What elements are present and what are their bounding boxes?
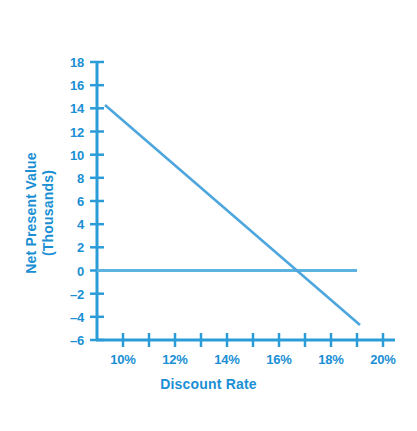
x-tick-label: 18% bbox=[318, 352, 343, 367]
y-tick-label: 12 bbox=[54, 125, 84, 140]
y-tick-label: –6 bbox=[50, 333, 84, 348]
y-tick-label: 0 bbox=[54, 264, 84, 279]
npv-discount-rate-chart: 18 16 14 12 10 8 6 4 2 0 –2 –4 –6 10% 12… bbox=[0, 0, 417, 431]
x-tick-label: 10% bbox=[110, 352, 135, 367]
y-tick-label: 4 bbox=[54, 217, 84, 232]
y-tick-label: 2 bbox=[54, 240, 84, 255]
x-tick-label: 16% bbox=[266, 352, 291, 367]
x-tick-label: 20% bbox=[370, 352, 395, 367]
x-tick-label: 12% bbox=[162, 352, 187, 367]
npv-series-line bbox=[105, 105, 360, 325]
x-axis-title: Discount Rate bbox=[0, 376, 417, 392]
y-tick-label: 10 bbox=[54, 148, 84, 163]
x-tick-label: 14% bbox=[214, 352, 239, 367]
y-axis-title-line1: Net Present Value bbox=[23, 113, 40, 313]
y-axis-title: Net Present Value (Thousands) bbox=[23, 113, 57, 313]
y-tick-label: 6 bbox=[54, 194, 84, 209]
y-tick-label: 8 bbox=[54, 171, 84, 186]
y-tick-label: 14 bbox=[54, 101, 84, 116]
y-axis-title-line2: (Thousands) bbox=[40, 113, 57, 313]
y-tick-label: 16 bbox=[54, 78, 84, 93]
y-tick-label: 18 bbox=[54, 55, 84, 70]
